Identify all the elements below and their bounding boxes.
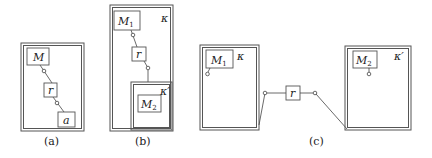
module-a-label: a bbox=[63, 114, 70, 127]
caption-c: (c) bbox=[309, 135, 324, 148]
port-r bbox=[55, 101, 59, 105]
diagram-b: κ M1 r M2 κ′ (b) bbox=[110, 5, 173, 148]
context-label-kappa-prime: κ′ bbox=[159, 85, 170, 98]
context-label-kappa-prime: κ′ bbox=[393, 50, 404, 63]
caption-b: (b) bbox=[135, 135, 151, 148]
diagram-canvas: M r a (a) κ M1 r M2 κ′ (b) M1 bbox=[0, 0, 432, 158]
wire-m1-port bbox=[208, 68, 210, 72]
port-m1 bbox=[131, 33, 135, 37]
diagram-a: M r a (a) bbox=[21, 43, 84, 148]
context-label-kappa: κ bbox=[160, 12, 169, 25]
module-r-label: r bbox=[290, 87, 296, 100]
port-left bbox=[263, 91, 267, 95]
port-r bbox=[146, 66, 150, 70]
diagram-c: M1 κ r M2 κ′ (c) bbox=[200, 45, 411, 148]
wire-m1-r bbox=[131, 30, 137, 47]
module-m-label: M bbox=[32, 51, 45, 64]
wire-left-frame-port bbox=[259, 93, 265, 125]
module-r-label: r bbox=[136, 48, 142, 61]
context-label-kappa: κ bbox=[236, 50, 245, 63]
port-m1 bbox=[206, 72, 210, 76]
caption-a: (a) bbox=[44, 135, 59, 148]
wire-port-right-frame bbox=[316, 94, 347, 129]
port-m2 bbox=[367, 72, 371, 76]
module-r-label: r bbox=[48, 84, 54, 97]
port-m bbox=[42, 69, 46, 73]
wire-m-r bbox=[40, 65, 52, 83]
